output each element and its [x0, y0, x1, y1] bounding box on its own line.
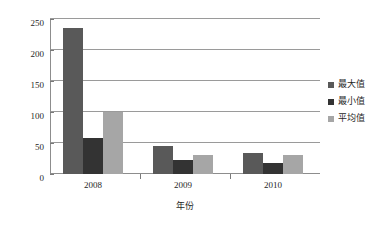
legend-swatch-icon [328, 99, 334, 105]
bar [63, 28, 83, 174]
legend-item[interactable]: 最大值 [328, 76, 386, 93]
y-tick-mark [50, 112, 54, 113]
y-axis-line [50, 19, 51, 175]
y-tick-mark [50, 143, 54, 144]
legend-label: 平均值 [338, 114, 365, 123]
y-tick-mark [50, 19, 54, 20]
plot-area [50, 19, 320, 174]
y-axis-labels: 050100150200250 [0, 19, 44, 174]
bar-group [63, 19, 123, 174]
bar-chart: 050100150200250 200820092010 年份 最大值最小值平均… [0, 0, 388, 232]
legend-swatch-icon [328, 82, 334, 88]
bar-group [243, 19, 303, 174]
x-axis-title: 年份 [0, 202, 370, 211]
bar [83, 138, 103, 174]
legend: 最大值最小值平均值 [328, 76, 386, 127]
bar [173, 160, 193, 174]
x-tick-mark [230, 174, 231, 179]
legend-item[interactable]: 最小值 [328, 93, 386, 110]
x-tick-label: 2009 [174, 181, 192, 190]
y-tick-mark [50, 174, 54, 175]
x-tick-label: 2010 [264, 181, 282, 190]
x-tick-mark [140, 174, 141, 179]
bar [103, 112, 123, 174]
legend-label: 最小值 [338, 97, 365, 106]
bar [283, 155, 303, 174]
x-tick-label: 2008 [84, 181, 102, 190]
bar [153, 146, 173, 174]
bar-group [153, 19, 213, 174]
y-tick-mark [50, 81, 54, 82]
y-tick-mark [50, 50, 54, 51]
bar [263, 163, 283, 174]
bar [193, 155, 213, 174]
bar [243, 153, 263, 174]
legend-swatch-icon [328, 116, 334, 122]
legend-item[interactable]: 平均值 [328, 110, 386, 127]
legend-label: 最大值 [338, 80, 365, 89]
